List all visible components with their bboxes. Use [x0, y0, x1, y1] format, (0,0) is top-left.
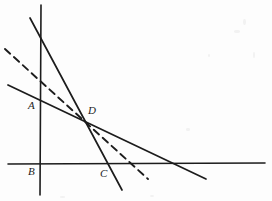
axes-group [8, 5, 265, 195]
dashed-line [5, 49, 148, 179]
geometry-figure: ABCD [0, 0, 272, 201]
point-label-c: C [100, 168, 107, 179]
paper-speck-5 [60, 196, 65, 198]
point-label-d: D [88, 105, 96, 116]
paper-speck-6 [150, 195, 154, 197]
point-label-a: A [28, 100, 35, 111]
shallow-line [8, 85, 206, 179]
paper-speck-1 [234, 30, 240, 33]
paper-speck-2 [253, 52, 255, 58]
horizontal-axis [8, 163, 265, 164]
paper-speck-4 [186, 128, 190, 131]
paper-speck-0 [243, 19, 246, 25]
point-label-b: B [28, 166, 35, 177]
figure-canvas [0, 0, 272, 201]
paper-speck-3 [208, 54, 210, 57]
